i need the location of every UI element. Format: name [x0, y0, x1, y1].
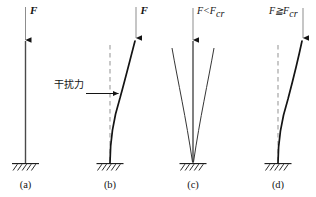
ground-support-c — [180, 164, 207, 171]
force-label-b: F — [140, 4, 149, 16]
panel-caption-b: (b) — [104, 179, 117, 191]
condition-label-d: F≧Fcr — [268, 5, 298, 19]
oscillation-curve-left-c — [172, 48, 193, 162]
panel-a: F (a) — [12, 4, 39, 191]
force-label-a: F — [29, 4, 38, 16]
ground-support-a — [12, 164, 39, 171]
condition-label-c: F<Fcr — [196, 5, 224, 19]
panel-c: F<Fcr (c) — [172, 5, 224, 191]
buckling-figure: F (a) 干扰力 F — [0, 0, 316, 197]
column-d — [278, 41, 302, 163]
oscillation-curve-right-c — [194, 48, 215, 162]
ground-support-d — [265, 164, 292, 171]
condition-label-d-subscript: cr — [289, 8, 297, 19]
panel-caption-c: (c) — [187, 179, 199, 191]
condition-label-c-main: F<F — [196, 5, 217, 16]
condition-label-d-main: F≧F — [268, 5, 290, 16]
disturbance-force-label: 干扰力 — [54, 78, 84, 90]
column-b — [110, 41, 135, 163]
panel-caption-d: (d) — [272, 179, 285, 191]
panel-caption-a: (a) — [20, 179, 32, 191]
ground-support-b — [97, 164, 124, 171]
panel-b: 干扰力 F (b) — [54, 4, 149, 191]
panel-d: F≧Fcr (d) — [265, 5, 304, 191]
condition-label-c-subscript: cr — [216, 8, 224, 19]
figure-canvas: F (a) 干扰力 F — [0, 0, 316, 197]
